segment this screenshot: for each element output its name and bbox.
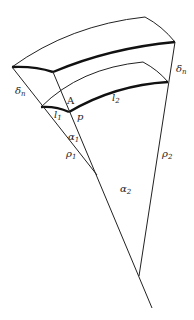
label-rho1: ρ1 xyxy=(65,148,76,161)
label-point-A: A xyxy=(66,95,75,106)
radius-middle-line xyxy=(53,72,152,308)
label-delta-right: δn xyxy=(176,63,187,76)
outer-left-arc xyxy=(12,67,53,72)
label-alpha1: α1 xyxy=(68,131,79,144)
label-l2: l2 xyxy=(112,92,120,105)
label-delta-left: δn xyxy=(15,85,26,98)
label-rho2: ρ2 xyxy=(161,148,173,161)
radius-left-line xyxy=(12,67,97,175)
outer-thick-arc xyxy=(53,42,175,72)
outer-top-arc xyxy=(12,17,175,67)
label-point-p: p xyxy=(77,111,84,122)
label-alpha2: α2 xyxy=(120,183,132,196)
label-l1: l1 xyxy=(54,109,62,122)
strip-curvature-diagram: δn δn A p l1 l2 α1 ρ1 α2 ρ2 xyxy=(0,0,194,320)
